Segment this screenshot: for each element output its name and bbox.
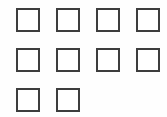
checkbox-r0-c0[interactable]	[16, 8, 40, 32]
checkbox-r2-c1[interactable]	[56, 88, 80, 112]
checkbox-r1-c3[interactable]	[136, 48, 160, 72]
checkbox-mark-icon	[98, 10, 118, 30]
checkbox-mark-icon	[58, 90, 78, 110]
checkbox-r2-c0[interactable]	[16, 88, 40, 112]
checkbox-r0-c2[interactable]	[96, 8, 120, 32]
checkbox-grid-canvas	[0, 0, 167, 117]
checkbox-mark-icon	[138, 10, 158, 30]
checkbox-mark-icon	[58, 50, 78, 70]
checkbox-row	[0, 88, 167, 112]
checkbox-r1-c1[interactable]	[56, 48, 80, 72]
checkbox-mark-icon	[18, 90, 38, 110]
checkbox-r1-c0[interactable]	[16, 48, 40, 72]
checkbox-mark-icon	[18, 10, 38, 30]
checkbox-mark-icon	[138, 50, 158, 70]
checkbox-r0-c1[interactable]	[56, 8, 80, 32]
checkbox-row	[0, 48, 167, 72]
checkbox-mark-icon	[98, 50, 118, 70]
checkbox-mark-icon	[18, 50, 38, 70]
checkbox-row	[0, 8, 167, 32]
checkbox-mark-icon	[58, 10, 78, 30]
checkbox-r0-c3[interactable]	[136, 8, 160, 32]
checkbox-r1-c2[interactable]	[96, 48, 120, 72]
